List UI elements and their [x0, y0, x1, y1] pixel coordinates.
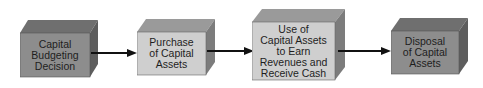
step-box-purchase-of-capital-assets: Purchase of Capital Assets — [137, 19, 215, 76]
step-box-disposal-of-capital-assets: Disposal of Capital Assets — [391, 18, 468, 75]
step-label: Disposal of Capital Assets — [391, 31, 459, 74]
arrow-right-icon — [91, 49, 137, 57]
step-label: Capital Budgeting Decision — [20, 33, 90, 77]
arrow-right-icon — [338, 47, 391, 55]
step-label: Use of Capital Assets to Earn Revenues a… — [252, 22, 335, 80]
step-box-use-of-capital-assets: Use of Capital Assets to Earn Revenues a… — [252, 9, 345, 81]
arrow-right-icon — [207, 47, 254, 55]
step-label: Purchase of Capital Assets — [137, 32, 206, 75]
step-box-capital-budgeting-decision: Capital Budgeting Decision — [20, 20, 98, 78]
